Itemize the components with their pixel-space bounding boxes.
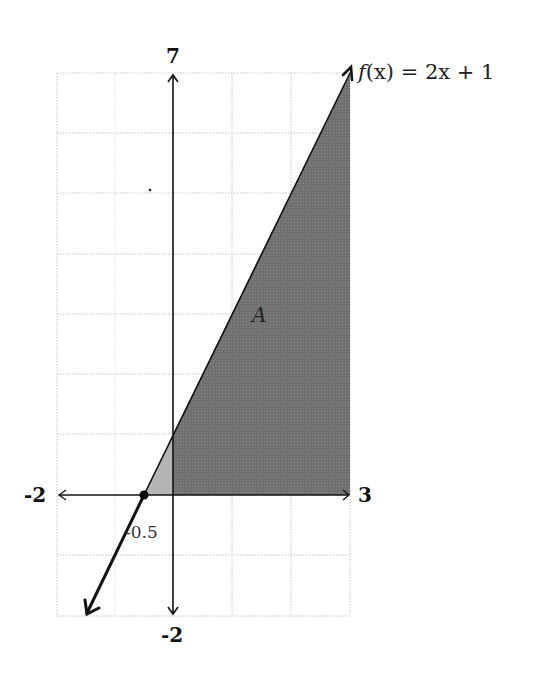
function-plot [0,0,542,681]
intercept-label: -0.5 [125,522,158,542]
y-axis [168,75,178,614]
y-min-label: -2 [161,623,183,647]
area-label: A [252,303,266,327]
y-max-label: 7 [166,44,180,68]
x-max-label: 3 [358,483,372,507]
x-min-label: -2 [24,483,46,507]
function-label: f(x) = 2x + 1 [358,60,494,84]
stray-dot [149,189,152,192]
shaded-area-dark [173,73,350,495]
x-intercept-point [140,491,149,500]
function-expression: (x) = 2x + 1 [366,60,495,84]
function-name: f [358,60,366,84]
